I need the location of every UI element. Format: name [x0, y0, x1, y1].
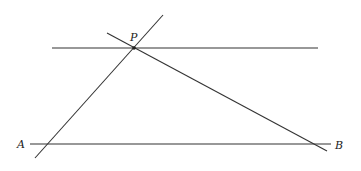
label-p: P [129, 31, 138, 44]
line-a-through-p [35, 15, 163, 158]
geometry-diagram: P A B [0, 0, 361, 171]
label-a: A [16, 138, 25, 151]
label-b: B [334, 139, 343, 152]
line-p-to-b [107, 33, 327, 151]
point-p [132, 46, 136, 50]
